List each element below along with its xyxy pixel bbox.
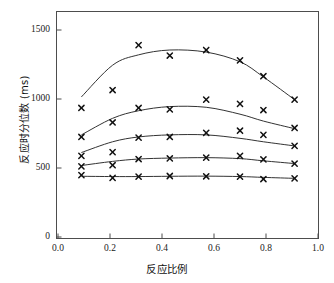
- fit-curve-quantile-3: [81, 135, 294, 153]
- data-points-quantile-1: [79, 173, 297, 182]
- x-tick-label: 0.0: [38, 243, 78, 253]
- data-points-quantile-5: [79, 43, 297, 111]
- y-tick-label: 0: [8, 231, 50, 241]
- x-axis-title: 反应比例: [0, 261, 334, 276]
- x-tick-label: 0.6: [194, 243, 234, 253]
- plot-canvas: [0, 0, 334, 283]
- chart-figure: 1500 1000 500 0 0.0 0.2 0.4 0.6 0.8 1.0 …: [0, 0, 334, 283]
- x-tick-label: 0.2: [90, 243, 130, 253]
- data-points-quantile-3: [79, 128, 297, 158]
- x-tick-label: 0.8: [246, 243, 286, 253]
- x-tick-label: 1.0: [298, 243, 334, 253]
- x-tick-label: 0.4: [142, 243, 182, 253]
- y-axis-title: 反应时分位数 (ms): [16, 45, 31, 195]
- y-tick-label: 1500: [8, 24, 50, 34]
